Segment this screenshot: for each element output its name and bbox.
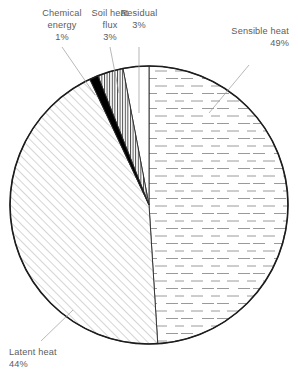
- label-latent-heat-line1: Latent heat: [9, 347, 57, 357]
- pie-slices: [10, 66, 288, 344]
- label-sensible-heat-value: 49%: [270, 38, 289, 48]
- label-latent-heat-value: 44%: [9, 359, 28, 369]
- label-sensible-heat-line1: Sensible heat: [231, 26, 289, 36]
- label-chemical-energy: Chemical energy 1%: [42, 8, 82, 42]
- label-residual: Residual 3%: [121, 8, 158, 30]
- label-chemical-energy-line1: Chemical: [42, 8, 82, 18]
- label-soil-heat-flux-line2: flux: [103, 20, 118, 30]
- label-chemical-energy-value: 1%: [55, 32, 69, 42]
- pie-chart-figure: Chemical energy 1% Soil heat flux 3% Res…: [0, 0, 298, 380]
- leader-line-latent-heat: [41, 310, 73, 341]
- label-residual-line1: Residual: [121, 8, 158, 18]
- label-soil-heat-flux-value: 3%: [103, 32, 117, 42]
- label-chemical-energy-line2: energy: [48, 20, 77, 30]
- label-sensible-heat: Sensible heat 49%: [231, 26, 289, 48]
- pie-chart-canvas: Chemical energy 1% Soil heat flux 3% Res…: [0, 0, 298, 380]
- label-residual-value: 3%: [132, 20, 146, 30]
- label-latent-heat: Latent heat 44%: [9, 347, 57, 369]
- pie-slice-sensible-heat[interactable]: [149, 66, 288, 344]
